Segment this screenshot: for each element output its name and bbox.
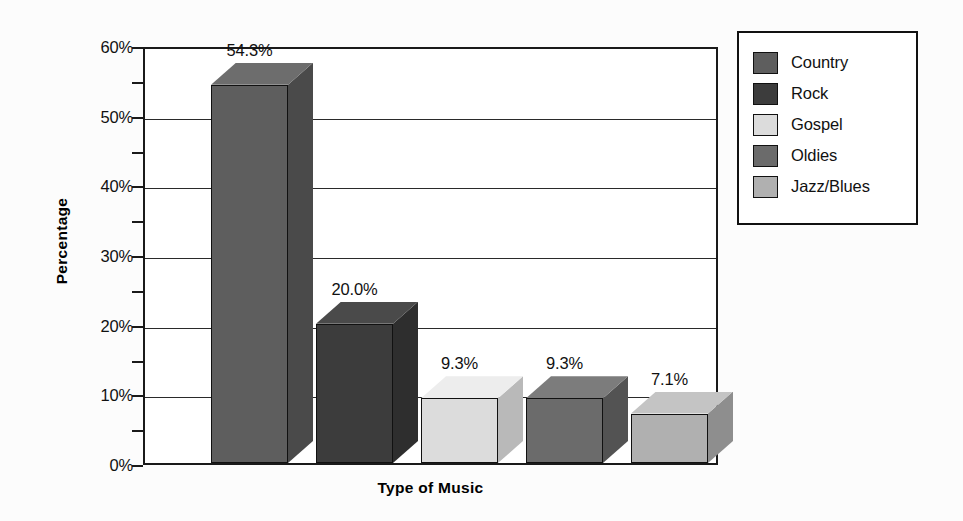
legend-swatch [753,52,778,74]
legend-label: Country [791,53,848,72]
y-axis-tick-label: 10% [101,386,133,405]
y-axis-tick-label: 0% [110,456,133,475]
bar-side [393,302,418,463]
bar-side [288,63,313,463]
y-axis-minor-tick [132,361,143,363]
legend: CountryRockGospelOldiesJazz/Blues [737,31,918,225]
legend-item-oldies[interactable]: Oldies [753,140,916,171]
y-axis-major-tick [132,395,143,397]
bar-data-label: 9.3% [441,354,478,373]
y-axis-tick-label: 30% [101,247,133,266]
bar-data-label: 54.3% [227,41,273,60]
legend-item-gospel[interactable]: Gospel [753,109,916,140]
y-axis-title: Percentage [53,151,71,331]
bar-data-label: 20.0% [332,280,378,299]
bar-front-face [526,398,603,463]
bar-front-face [211,85,288,463]
legend-swatch [753,114,778,136]
y-axis-tick-label: 40% [101,177,133,196]
y-axis-major-tick [132,326,143,328]
legend-label: Gospel [791,115,843,134]
y-axis-major-tick [132,256,143,258]
bar-data-label: 7.1% [651,370,688,389]
bar-front-face [316,324,393,463]
legend-label: Oldies [791,146,837,165]
bar-data-label: 9.3% [546,354,583,373]
bar-jazz-blues[interactable] [631,392,708,463]
y-axis-major-tick [132,186,143,188]
y-axis-minor-tick [132,291,143,293]
bar-rock[interactable] [316,302,393,463]
y-axis-major-tick [132,117,143,119]
legend-label: Jazz/Blues [791,177,870,196]
y-axis-tick-label: 60% [101,38,133,57]
chart-canvas: 0%10%20%30%40%50%60% Percentage 54.3%20.… [0,0,963,521]
legend-swatch [753,176,778,198]
y-axis-tick-label: 20% [101,316,133,335]
bar-side-face [288,63,313,463]
y-axis-major-tick [132,47,143,49]
y-axis-tick-label: 50% [101,107,133,126]
bar-front-face [631,414,708,463]
y-axis-minor-tick [132,430,143,432]
legend-item-rock[interactable]: Rock [753,78,916,109]
y-axis-minor-tick [132,82,143,84]
y-axis: 0%10%20%30%40%50%60% [0,0,143,521]
y-axis-major-tick [132,465,143,467]
legend-item-country[interactable]: Country [753,47,916,78]
plot-area: 54.3%20.0%9.3%9.3%7.1% [143,47,718,465]
bar-gospel[interactable] [421,376,498,463]
bar-front-face [421,398,498,463]
bar-country[interactable] [211,63,288,463]
bar-oldies[interactable] [526,376,603,463]
y-axis-minor-tick [132,221,143,223]
legend-swatch [753,145,778,167]
y-axis-minor-tick [132,152,143,154]
x-axis-title: Type of Music [143,479,718,497]
bar-side-face [393,302,418,463]
legend-item-jazz-blues[interactable]: Jazz/Blues [753,171,916,202]
legend-label: Rock [791,84,828,103]
legend-swatch [753,83,778,105]
